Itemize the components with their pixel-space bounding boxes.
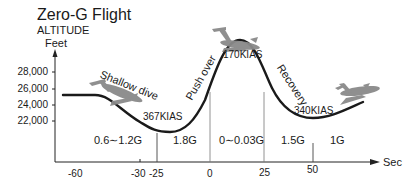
x-tick-minus-30: -30: [131, 168, 145, 179]
x-tick-minus-60: -60: [68, 168, 82, 179]
y-axis-arrow-icon: [53, 49, 58, 57]
flight-profile-plot: [0, 0, 417, 187]
y-tick-24000: 24,000: [4, 99, 48, 110]
x-axis-arrow-icon: [370, 159, 380, 165]
y-tick-22000: 22,000: [4, 115, 48, 126]
speed-dive-bottom: 367KIAS: [143, 111, 182, 122]
x-axis-unit: Sec: [383, 156, 402, 168]
speed-apex: 170KIAS: [223, 49, 262, 60]
g-load-segment-1: 0.6∼1.2G: [94, 134, 142, 147]
y-tick-28000: 28,000: [4, 66, 48, 77]
aircraft-icon-recovery: [335, 83, 380, 105]
g-load-segment-4: 1.5G: [281, 134, 305, 146]
x-tick-0: 0: [207, 168, 213, 179]
x-tick-minus-25: -25: [149, 168, 163, 179]
y-tick-26000: 26,000: [4, 83, 48, 94]
g-load-segment-3: 0∼0.03G: [219, 134, 264, 147]
g-load-segment-5: 1G: [330, 134, 345, 146]
x-tick-50: 50: [307, 164, 318, 175]
x-tick-25: 25: [259, 167, 270, 178]
g-load-segment-2: 1.8G: [173, 134, 197, 146]
